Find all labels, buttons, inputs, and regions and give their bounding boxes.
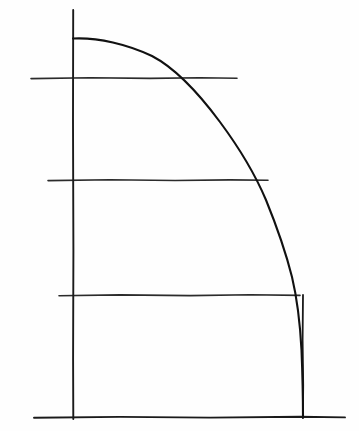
gridline-middle — [48, 180, 268, 181]
figure-root — [0, 0, 359, 431]
figure-background — [0, 0, 359, 431]
hand-drawn-chart-canvas — [0, 0, 359, 431]
gridline-upper — [31, 78, 237, 79]
gridline-lower — [59, 295, 300, 296]
x-axis-line — [34, 417, 345, 418]
